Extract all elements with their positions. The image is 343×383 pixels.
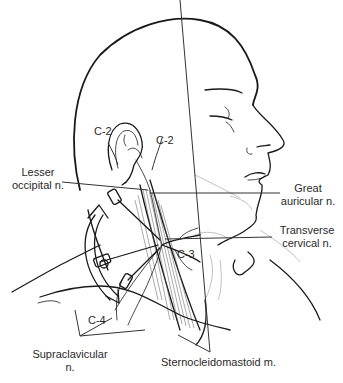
shoulder [12,245,100,292]
eyebrow [205,89,242,93]
label-transverse-cervical: Transverse cervical n. [273,224,341,250]
label-great-auricular: Great auricular n. [275,182,341,208]
leader-sternocleidomastoid [180,0,210,352]
anatomy-illustration: C-2 C-2 C-3 C-4 Lesser occipital n. Grea… [0,0,343,383]
mouth [245,173,265,177]
label-c3: C-3 [177,248,195,261]
label-c2-neck: C-2 [156,134,174,147]
nostril [257,145,270,147]
label-sternocleidomastoid: Sternocleidomastoid m. [161,356,276,369]
skull-outline [74,19,258,190]
clavicle [40,286,230,330]
leader-lesser-occipital [62,182,148,190]
label-c2-ear: C-2 [94,125,112,138]
leader-supraclavicular [75,310,145,336]
label-lesser-occipital: Lesser occipital n. [8,166,68,192]
needles [93,188,160,289]
thyroid-cartilage [233,252,254,275]
label-c4: C-4 [88,314,106,327]
label-supraclavicular: Supraclavicular n. [30,348,110,374]
